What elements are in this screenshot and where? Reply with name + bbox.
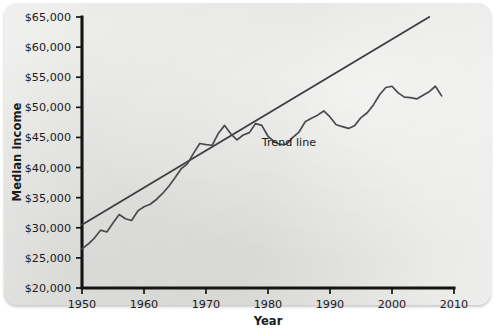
figure-median-income-chart: $20,000$25,000$30,000$35,000$40,000$45,0… bbox=[0, 0, 495, 334]
chart-axes bbox=[82, 17, 454, 288]
y-tick-label: $25,000 bbox=[25, 252, 71, 265]
trend-line-annotation: Trend line bbox=[261, 136, 316, 149]
y-tick-label: $35,000 bbox=[25, 192, 71, 205]
y-axis-title: Median income bbox=[10, 102, 24, 201]
y-tick-label: $55,000 bbox=[25, 71, 71, 84]
y-tick-label: $60,000 bbox=[25, 41, 71, 54]
x-tick-label: 1980 bbox=[254, 298, 282, 311]
x-tick-label: 2000 bbox=[378, 298, 406, 311]
y-tick-label: $45,000 bbox=[25, 131, 71, 144]
x-tick-label: 1950 bbox=[68, 298, 96, 311]
median-income-series bbox=[82, 86, 442, 249]
x-tick-label: 1990 bbox=[316, 298, 344, 311]
y-tick-label: $65,000 bbox=[25, 11, 71, 24]
chart-svg: $20,000$25,000$30,000$35,000$40,000$45,0… bbox=[0, 0, 495, 334]
y-tick-label: $30,000 bbox=[25, 222, 71, 235]
x-tick-label: 1970 bbox=[192, 298, 220, 311]
x-axis-title: Year bbox=[253, 314, 283, 328]
x-tick-label: 2010 bbox=[440, 298, 468, 311]
y-axis-tick-labels: $20,000$25,000$30,000$35,000$40,000$45,0… bbox=[25, 11, 71, 295]
x-tick-label: 1960 bbox=[130, 298, 158, 311]
x-axis-tick-labels: 1950196019701980199020002010 bbox=[68, 298, 468, 311]
y-tick-label: $20,000 bbox=[25, 282, 71, 295]
y-tick-label: $40,000 bbox=[25, 162, 71, 175]
y-tick-label: $50,000 bbox=[25, 101, 71, 114]
trend-line-series bbox=[82, 17, 429, 225]
